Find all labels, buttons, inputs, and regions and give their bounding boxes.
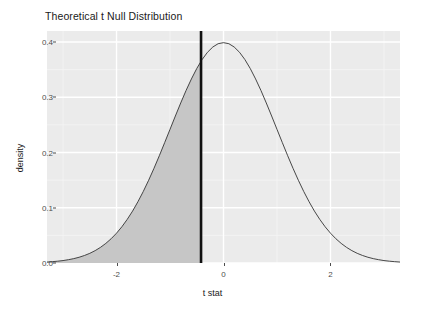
- y-tick-label: 0.4: [23, 38, 53, 47]
- chart-title: Theoretical t Null Distribution: [45, 10, 182, 22]
- x-tick-label: 0: [209, 270, 239, 279]
- x-tick-mark: [117, 263, 118, 266]
- x-tick-label: 2: [315, 270, 345, 279]
- y-tick-label: 0.3: [23, 93, 53, 102]
- chart-container: Theoretical t Null Distribution density …: [0, 0, 425, 316]
- y-tick-label: 0.2: [23, 148, 53, 157]
- y-tick-mark: [53, 207, 56, 208]
- y-tick-mark: [53, 97, 56, 98]
- major-gridlines: [47, 31, 400, 263]
- y-tick-mark: [53, 42, 56, 43]
- x-axis-title: t stat: [0, 288, 425, 298]
- x-tick-mark: [224, 263, 225, 266]
- y-tick-mark: [53, 152, 56, 153]
- plot-svg: [47, 31, 400, 263]
- y-tick-label: 0.0: [23, 259, 53, 268]
- y-tick-label: 0.1: [23, 203, 53, 212]
- y-tick-mark: [53, 263, 56, 264]
- plot-panel: [47, 31, 400, 263]
- x-tick-mark: [330, 263, 331, 266]
- x-tick-label: -2: [102, 270, 132, 279]
- shaded-rejection-area: [47, 61, 201, 263]
